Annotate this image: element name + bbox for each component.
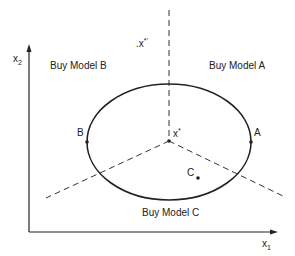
region-label-c: Buy Model C [142,207,199,218]
point-b [85,140,89,144]
point-a [249,140,253,144]
ideal-prime-sup: *' [144,37,148,44]
region-label-b: Buy Model B [50,60,107,71]
region-label-a: Buy Model A [209,60,265,71]
y-axis-label-sub: 2 [18,59,22,66]
point-ideal-prime-label: .x*' [136,38,148,49]
point-c-label: C [187,167,194,178]
point-b-label: B [77,127,84,138]
x-axis-label-sub: 1 [267,244,271,251]
point-ideal [167,139,171,143]
ideal-prime-text: .x [136,38,144,49]
point-c [196,176,200,180]
boundary-bc [46,141,169,198]
point-a-label: A [254,127,261,138]
x-axis-arrow-icon [270,230,278,235]
y-axis-label: x2 [13,53,22,64]
ideal-sup: * [178,127,181,134]
point-ideal-label: x* [173,128,181,139]
x-axis-label: x1 [262,238,271,249]
y-axis-arrow-icon [27,44,32,52]
